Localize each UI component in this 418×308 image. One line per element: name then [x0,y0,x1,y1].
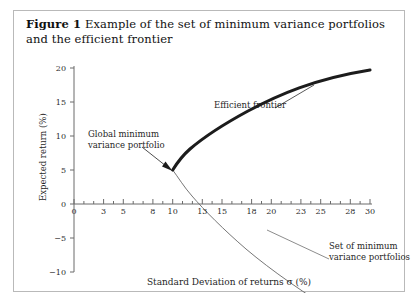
chart-plot-area: 20 15 10 5 0 −5 −10 0 3 5 8 10 13 15 18 … [14,11,406,293]
efficient-frontier-curve [173,70,370,170]
x-tick-label-18: 18 [247,207,257,216]
y-tick-label-0: 0 [46,200,66,209]
y-tick-label-5: 5 [46,166,66,175]
x-tick-label-20: 20 [266,207,276,216]
y-tick-label-15: 15 [46,98,66,107]
x-tick-label-23: 23 [296,207,306,216]
y-tick-label-minus-10: −10 [42,268,66,277]
x-tick-label-15: 15 [217,207,227,216]
figure-container: Figure 1 Example of the set of minimum v… [13,10,405,292]
x-tick-label-30: 30 [365,207,375,216]
annotation-set-of-minimum-variance-portfolios: Set of minimum variance portfolios [329,241,410,263]
x-tick-label-10: 10 [168,207,178,216]
y-tick-label-20: 20 [46,64,66,73]
annotation-smv-line1: Set of minimum [329,241,410,252]
x-tick-label-28: 28 [345,207,355,216]
x-axis-ticks [74,199,370,204]
x-tick-label-5: 5 [121,207,126,216]
y-tick-label-minus-5: −5 [42,234,66,243]
annotation-gmv-line1: Global minimum [88,129,165,140]
annotation-efficient-frontier: Efficient frontier [214,100,286,111]
annotation-smv-line2: variance portfolios [329,252,410,263]
annotation-ef-line1: Efficient frontier [214,100,286,111]
x-tick-label-8: 8 [150,207,155,216]
annotation-gmv-line2: variance portfolio [88,140,165,151]
x-tick-label-0: 0 [71,207,76,216]
x-tick-label-25: 25 [316,207,326,216]
minimum-variance-lower-branch [173,170,344,293]
y-tick-label-10: 10 [46,132,66,141]
y-axis-title: Expected return (%) [38,113,48,201]
x-axis-title: Standard Deviation of returns σ (%) [147,277,311,287]
x-tick-label-13: 13 [197,207,207,216]
gmv-annotation-arrowhead [162,162,173,172]
y-axis-ticks [70,68,74,272]
annotation-global-minimum-variance-portfolio: Global minimum variance portfolio [88,129,165,151]
smv-annotation-leader-line [267,230,329,259]
x-tick-label-3: 3 [101,207,106,216]
